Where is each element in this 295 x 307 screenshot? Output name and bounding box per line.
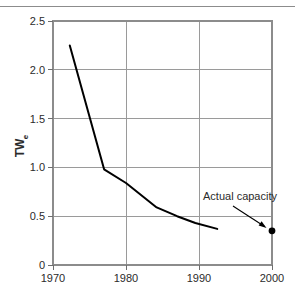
x-tick-label-1980: 1980	[114, 272, 138, 284]
line-chart: 2.5 2.0 1.5 1.0 0.5 0 1970 1980 1990 200…	[0, 0, 295, 307]
datapoint-actual-capacity	[269, 227, 276, 234]
y-axis-title: TW e	[13, 134, 30, 157]
y-tick-label-2.5: 2.5	[30, 15, 45, 27]
x-tick-label-1970: 1970	[41, 272, 65, 284]
x-axis-tick-labels: 1970 1980 1990 2000	[41, 272, 284, 284]
y-axis-title-base: TW	[13, 138, 27, 157]
y-tick-label-0.5: 0.5	[30, 210, 45, 222]
x-tick-label-2000: 2000	[260, 272, 284, 284]
x-tick-label-1990: 1990	[187, 272, 211, 284]
y-tick-label-2.0: 2.0	[30, 64, 45, 76]
y-axis-tick-labels: 2.5 2.0 1.5 1.0 0.5 0	[30, 15, 45, 271]
annotation-label-actual-capacity: Actual capacity	[203, 190, 277, 202]
x-axis-tickmarks	[53, 265, 272, 270]
y-axis-tickmarks	[48, 21, 53, 265]
y-tick-label-1.0: 1.0	[30, 161, 45, 173]
chart-figure: 2.5 2.0 1.5 1.0 0.5 0 1970 1980 1990 200…	[0, 0, 295, 307]
y-tick-label-0: 0	[39, 259, 45, 271]
plot-background	[53, 21, 272, 265]
y-tick-label-1.5: 1.5	[30, 113, 45, 125]
y-axis-title-subscript: e	[21, 134, 30, 139]
